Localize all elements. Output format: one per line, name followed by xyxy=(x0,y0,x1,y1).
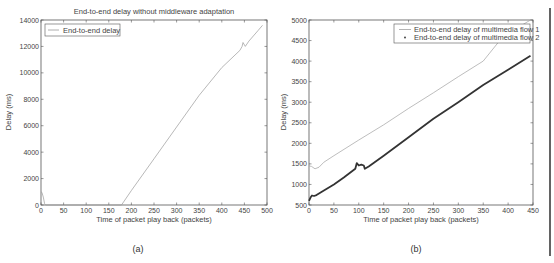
y-tick-label: 3500 xyxy=(291,78,307,85)
chart-b-legend-label-2: End-to-end delay of multimedia flow 2 xyxy=(414,33,539,42)
y-tick-label: 0 xyxy=(35,202,39,209)
x-tick-label: 100 xyxy=(353,207,365,214)
chart-b-legend: End-to-end delay of multimedia flow 1 En… xyxy=(394,24,539,43)
x-tick-label: 250 xyxy=(428,207,440,214)
x-tick-label: 450 xyxy=(239,207,251,214)
chart-a-legend: End-to-end delay xyxy=(45,24,120,36)
y-tick-label: 2500 xyxy=(291,119,307,126)
y-tick-label: 1000 xyxy=(291,181,307,188)
x-tick-label: 0 xyxy=(39,207,43,214)
x-tick-label: 50 xyxy=(60,207,68,214)
y-tick-label: 3000 xyxy=(291,99,307,106)
x-tick-label: 200 xyxy=(126,207,138,214)
x-tick-label: 350 xyxy=(193,207,205,214)
chart-b-ylabel: Delay (ms) xyxy=(279,93,288,130)
x-tick-label: 400 xyxy=(216,207,228,214)
x-tick-label: 400 xyxy=(502,207,514,214)
y-tick-label: 1500 xyxy=(291,160,307,167)
x-tick-label: 100 xyxy=(80,207,92,214)
y-tick-label: 4000 xyxy=(291,58,307,65)
chart-b-xlabel: Time of packet play back (packets) xyxy=(363,215,479,224)
y-tick-label: 8000 xyxy=(23,96,39,103)
x-tick-label: 300 xyxy=(171,207,183,214)
chart-a-ylabel: Delay (ms) xyxy=(4,93,13,130)
x-tick-label: 300 xyxy=(452,207,464,214)
chart-a-xlabel: Time of packet play back (packets) xyxy=(96,215,212,224)
chart-a-title: End-to-end delay without middleware adap… xyxy=(74,7,235,16)
x-tick-label: 450 xyxy=(527,207,539,214)
x-tick-label: 250 xyxy=(148,207,160,214)
chart-a-plot-area xyxy=(41,20,267,205)
y-tick-label: 6000 xyxy=(23,122,39,129)
chart-a: End-to-end delay without middleware adap… xyxy=(4,7,273,254)
x-tick-label: 150 xyxy=(378,207,390,214)
x-tick-label: 200 xyxy=(403,207,415,214)
x-tick-label: 50 xyxy=(330,207,338,214)
figure: End-to-end delay without middleware adap… xyxy=(0,0,554,263)
y-tick-label: 4000 xyxy=(23,149,39,156)
chart-b-legend-swatch-2 xyxy=(404,37,406,39)
y-tick-label: 2000 xyxy=(291,140,307,147)
y-tick-label: 14000 xyxy=(20,17,40,24)
x-tick-label: 350 xyxy=(477,207,489,214)
x-tick-label: 0 xyxy=(307,207,311,214)
chart-a-legend-label: End-to-end delay xyxy=(63,26,120,35)
chart-b: 0501001502002503003504004505001000150020… xyxy=(279,17,539,255)
y-tick-label: 12000 xyxy=(20,43,40,50)
y-tick-label: 500 xyxy=(295,202,307,209)
chart-b-caption: (b) xyxy=(411,244,422,254)
y-tick-label: 5000 xyxy=(291,17,307,24)
chart-a-caption: (a) xyxy=(133,244,144,254)
x-tick-label: 150 xyxy=(103,207,115,214)
x-tick-label: 500 xyxy=(261,207,273,214)
y-tick-label: 10000 xyxy=(20,69,40,76)
y-tick-label: 4500 xyxy=(291,37,307,44)
y-tick-label: 2000 xyxy=(23,175,39,182)
